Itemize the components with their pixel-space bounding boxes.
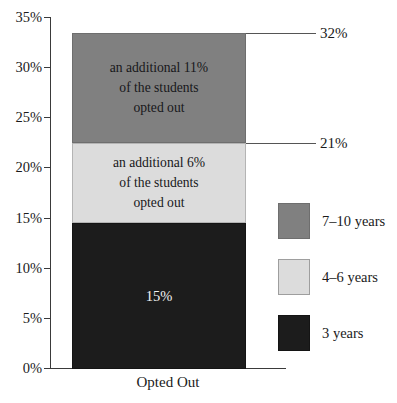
- y-tick-mark-5: [44, 318, 51, 319]
- x-axis-label: Opted Out: [50, 374, 286, 391]
- legend-swatch-light-gray: [278, 259, 310, 295]
- bar-segment-bottom-value: 15%: [146, 286, 173, 306]
- y-tick-mark-25: [44, 117, 51, 118]
- callout-label-21: 21%: [320, 136, 348, 151]
- bar-segment-4-6-years: an additional 6% of the students opted o…: [72, 143, 246, 223]
- legend-item-4-6-years: 4–6 years: [278, 259, 378, 295]
- bar-segment-middle-line2: of the students: [119, 173, 198, 193]
- legend-swatch-black: [278, 315, 310, 351]
- y-tick-mark-20: [44, 167, 51, 168]
- bar-segment-top-line3: opted out: [134, 98, 185, 118]
- callout-line-32: [246, 33, 316, 34]
- y-tick-label-0: 0%: [0, 361, 42, 376]
- y-tick-label-15: 15%: [0, 211, 42, 226]
- y-tick-mark-0: [44, 368, 51, 369]
- bar-segment-middle-line1: an additional 6%: [113, 153, 205, 173]
- y-tick-label-25: 25%: [0, 110, 42, 125]
- bar-segment-middle-line3: opted out: [134, 193, 185, 213]
- y-tick-label-20: 20%: [0, 160, 42, 175]
- y-axis-line: [50, 17, 51, 369]
- bar-segment-3-years: 15%: [72, 223, 246, 369]
- legend-label-3-years: 3 years: [322, 326, 363, 341]
- callout-label-32: 32%: [320, 26, 348, 41]
- y-tick-label-10: 10%: [0, 261, 42, 276]
- legend-label-7-10-years: 7–10 years: [322, 214, 385, 229]
- y-tick-label-5: 5%: [0, 311, 42, 326]
- y-tick-mark-15: [44, 218, 51, 219]
- stacked-bar-chart: 35% 30% 25% 20% 15% 10% 5% 0% an additio…: [0, 0, 397, 403]
- y-tick-label-35: 35%: [0, 10, 42, 25]
- bar-segment-top-line1: an additional 11%: [110, 58, 208, 78]
- legend-item-7-10-years: 7–10 years: [278, 203, 385, 239]
- y-tick-mark-35: [44, 17, 51, 18]
- bar-segment-7-10-years: an additional 11% of the students opted …: [72, 33, 246, 143]
- y-tick-label-30: 30%: [0, 60, 42, 75]
- legend-label-4-6-years: 4–6 years: [322, 270, 378, 285]
- legend-swatch-dark-gray: [278, 203, 310, 239]
- y-tick-mark-30: [44, 67, 51, 68]
- bar-segment-top-line2: of the students: [119, 78, 198, 98]
- callout-line-21: [246, 143, 316, 144]
- y-tick-mark-10: [44, 268, 51, 269]
- legend-item-3-years: 3 years: [278, 315, 363, 351]
